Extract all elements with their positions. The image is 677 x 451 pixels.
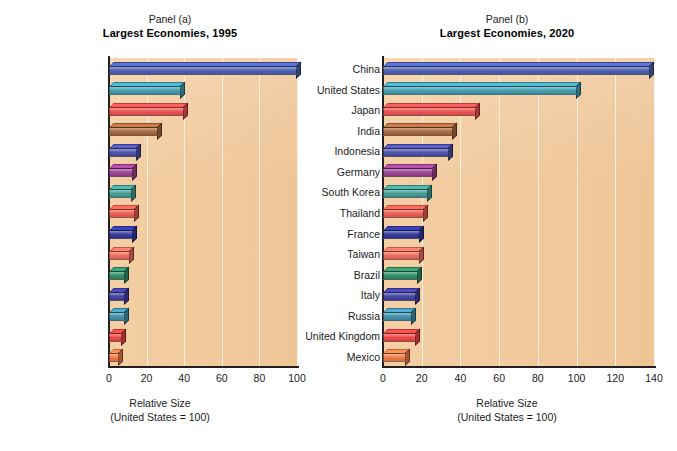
- bar-row: Germany: [337, 161, 677, 182]
- bar-face: [109, 333, 122, 342]
- bar-face: [383, 168, 433, 177]
- x-tick-label: 140: [634, 372, 674, 384]
- bar-face: [383, 127, 453, 136]
- x-tick-label: 0: [89, 372, 129, 384]
- bar-face: [383, 271, 418, 280]
- category-label: Germany: [180, 166, 380, 178]
- bar-face: [109, 312, 125, 321]
- bar-row: Brazil: [337, 263, 677, 284]
- bar-face: [383, 66, 650, 75]
- category-label: China: [180, 63, 380, 75]
- bar-face: [109, 168, 133, 177]
- bar: [109, 205, 139, 218]
- bar: [383, 205, 428, 218]
- panel-a-title: Largest Economies, 1995: [0, 26, 340, 41]
- bar-row: Japan: [337, 99, 677, 120]
- bar-face: [109, 230, 133, 239]
- x-tick-label: 20: [402, 372, 442, 384]
- panel-b-x-axis-label: Relative Size (United States = 100): [357, 396, 657, 424]
- bar-face: [109, 86, 181, 95]
- bar: [109, 164, 137, 177]
- bar-row: Thailand: [337, 202, 677, 223]
- bar-row: United States: [337, 79, 677, 100]
- figure-root: Panel (a) Largest Economies, 1995 United…: [0, 0, 677, 451]
- bar: [383, 82, 581, 95]
- panel-b-xlabel-line1: Relative Size: [357, 396, 657, 410]
- category-label: Japan: [180, 104, 380, 116]
- bar-row: United Kingdom: [337, 325, 677, 346]
- bar-face: [109, 189, 132, 198]
- bar: [383, 288, 420, 301]
- category-label: Taiwan: [180, 248, 380, 260]
- x-tick-label: 40: [440, 372, 480, 384]
- panel-a-heading: Panel (a) Largest Economies, 1995: [0, 12, 340, 41]
- bar-face: [383, 251, 420, 260]
- category-label: France: [180, 228, 380, 240]
- bar-row: China: [337, 58, 677, 79]
- bar-face: [109, 271, 125, 280]
- category-label: India: [180, 125, 380, 137]
- panel-b-heading: Panel (b) Largest Economies, 2020: [337, 12, 677, 41]
- bar-face: [383, 107, 476, 116]
- panel-b-kicker: Panel (b): [337, 12, 677, 26]
- bar-face: [109, 148, 137, 157]
- x-tick-label: 60: [479, 372, 519, 384]
- category-label: Brazil: [180, 269, 380, 281]
- bar: [383, 226, 424, 239]
- panel-a-x-axis-label: Relative Size (United States = 100): [20, 396, 300, 424]
- bar-row: Russia: [337, 304, 677, 325]
- panel-a-xlabel-line2: (United States = 100): [20, 410, 300, 424]
- x-tick-label: 100: [557, 372, 597, 384]
- category-label: United Kingdom: [180, 330, 380, 342]
- bar-face: [383, 230, 420, 239]
- bar: [383, 185, 432, 198]
- bar: [383, 267, 422, 280]
- bar: [109, 82, 185, 95]
- bar-face: [383, 209, 424, 218]
- bar-row: India: [337, 120, 677, 141]
- x-tick-label: 100: [277, 372, 317, 384]
- panel-b-bars: ChinaUnited StatesJapanIndiaIndonesiaGer…: [337, 58, 677, 366]
- bar: [109, 144, 141, 157]
- x-tick-label: 60: [202, 372, 242, 384]
- bar: [109, 185, 136, 198]
- bar: [109, 288, 129, 301]
- bar: [383, 123, 457, 136]
- panel-b-x-axis: [383, 366, 656, 368]
- panel-a-x-axis: [109, 366, 299, 368]
- panel-b-xlabel-line2: (United States = 100): [357, 410, 657, 424]
- x-tick-label: 40: [164, 372, 204, 384]
- bar-face: [383, 148, 449, 157]
- bar: [383, 247, 424, 260]
- bar-row: Italy: [337, 284, 677, 305]
- bar: [383, 62, 654, 75]
- bar-face: [109, 292, 125, 301]
- bar-face: [383, 353, 406, 362]
- x-tick-label: 0: [363, 372, 403, 384]
- bar: [383, 329, 420, 342]
- bar-face: [383, 292, 416, 301]
- panel-b: Panel (b) Largest Economies, 2020 ChinaU…: [337, 0, 677, 451]
- bar-face: [109, 107, 184, 116]
- panel-b-title: Largest Economies, 2020: [337, 26, 677, 41]
- category-label: Russia: [180, 310, 380, 322]
- bar: [109, 329, 126, 342]
- bar: [109, 123, 162, 136]
- bar-face: [109, 127, 158, 136]
- x-tick-label: 120: [595, 372, 635, 384]
- bar-face: [383, 312, 412, 321]
- category-label: South Korea: [180, 186, 380, 198]
- bar-row: Mexico: [337, 345, 677, 366]
- panel-a-kicker: Panel (a): [0, 12, 340, 26]
- bar: [383, 144, 453, 157]
- bar: [383, 308, 416, 321]
- bar: [383, 349, 410, 362]
- category-label: United States: [180, 84, 380, 96]
- bar: [109, 226, 137, 239]
- bar-face: [383, 86, 577, 95]
- bar-face: [383, 333, 416, 342]
- category-label: Mexico: [180, 351, 380, 363]
- panel-a-xlabel-line1: Relative Size: [20, 396, 300, 410]
- bar: [109, 103, 188, 116]
- bar: [109, 349, 123, 362]
